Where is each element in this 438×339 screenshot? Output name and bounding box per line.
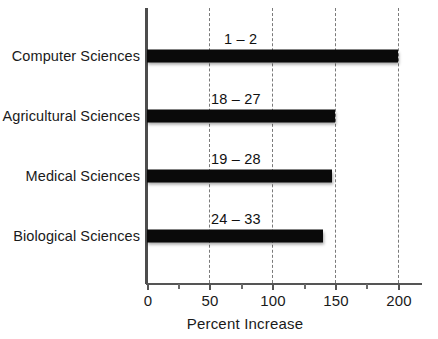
x-axis-line bbox=[146, 283, 422, 285]
x-tick-minor-25 bbox=[178, 284, 180, 289]
x-tick-minor-125 bbox=[304, 284, 306, 289]
bar-computer-sciences bbox=[147, 50, 398, 63]
x-tick-label-0: 0 bbox=[144, 292, 153, 309]
category-label-agricultural-sciences: Agricultural Sciences bbox=[0, 108, 140, 124]
bar-annotation-medical-sciences: 19 – 28 bbox=[211, 151, 261, 167]
bar-agricultural-sciences bbox=[147, 110, 335, 123]
x-tick-label-150: 150 bbox=[323, 292, 349, 309]
bar-medical-sciences bbox=[147, 170, 332, 183]
gridline-200 bbox=[398, 8, 399, 283]
x-tick-150 bbox=[335, 284, 337, 290]
bar-annotation-agricultural-sciences: 18 – 27 bbox=[211, 91, 261, 107]
bar-chart: 0 50 100 150 200 Percent Increase Comput… bbox=[0, 0, 438, 339]
x-tick-0 bbox=[147, 284, 149, 290]
x-tick-minor-75 bbox=[241, 284, 243, 289]
x-axis-title-text: Percent Increase bbox=[187, 315, 304, 332]
bar-annotation-biological-sciences: 24 – 33 bbox=[211, 211, 261, 227]
x-tick-100 bbox=[272, 284, 274, 290]
x-axis-title: Percent Increase bbox=[0, 315, 438, 332]
category-label-medical-sciences: Medical Sciences bbox=[0, 168, 140, 184]
x-tick-label-100: 100 bbox=[260, 292, 286, 309]
bar-biological-sciences bbox=[147, 230, 323, 243]
bar-annotation-computer-sciences: 1 – 2 bbox=[224, 31, 257, 47]
x-tick-label-200: 200 bbox=[386, 292, 412, 309]
x-tick-minor-175 bbox=[366, 284, 368, 289]
x-tick-50 bbox=[209, 284, 211, 290]
x-tick-200 bbox=[398, 284, 400, 290]
category-label-biological-sciences: Biological Sciences bbox=[0, 228, 140, 244]
category-label-computer-sciences: Computer Sciences bbox=[0, 48, 140, 64]
x-tick-label-50: 50 bbox=[201, 292, 218, 309]
